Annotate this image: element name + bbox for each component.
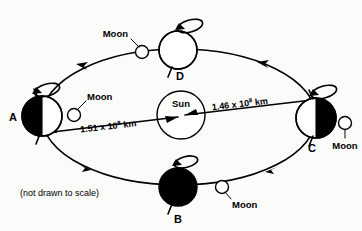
earth-a-rotation-arrow bbox=[32, 81, 61, 100]
moon-near-b-label: Moon bbox=[232, 199, 258, 210]
earth-b-axis-bottom bbox=[168, 204, 172, 214]
moon-near-d-circle bbox=[136, 46, 149, 59]
moon-near-c-label: Moon bbox=[332, 140, 358, 151]
earth-a-label: A bbox=[9, 111, 17, 123]
earth-orbit-diagram-root: Sun 1.51 x 108 km 1.46 x 108 km bbox=[0, 0, 362, 231]
moon-near-a-group: Moon bbox=[68, 91, 113, 122]
earth-b-rotation-arrow bbox=[172, 154, 199, 170]
earth-b-circle bbox=[159, 168, 197, 206]
distance-label-right: 1.46 x 108 km bbox=[211, 95, 268, 112]
not-to-scale-note: (not drawn to scale) bbox=[20, 188, 99, 198]
earth-d-rotation-arrow bbox=[175, 17, 204, 36]
earth-d-label: D bbox=[176, 70, 184, 82]
moon-near-a-circle bbox=[68, 109, 81, 122]
earth-d-axis-bottom bbox=[168, 67, 172, 77]
moon-near-b-group: Moon bbox=[216, 181, 258, 211]
sun-label: Sun bbox=[172, 98, 190, 109]
earth-position-b-group: B bbox=[159, 154, 199, 225]
earth-c-rotation-arrow bbox=[309, 83, 338, 102]
moon-near-d-label: Moon bbox=[103, 28, 129, 39]
distance-right-mantissa: 1.46 x 108 km bbox=[211, 95, 268, 112]
moon-near-d-leader bbox=[131, 39, 139, 47]
orbit-diagram-canvas: Sun 1.51 x 108 km 1.46 x 108 km bbox=[0, 0, 362, 231]
moon-near-a-leader bbox=[77, 101, 86, 110]
moon-near-b-circle bbox=[216, 181, 229, 194]
distance-left-mantissa: 1.51 x 108 km bbox=[80, 118, 137, 135]
earth-c-label: C bbox=[308, 142, 316, 154]
distance-label-left: 1.51 x 108 km bbox=[80, 118, 137, 135]
moon-near-c-circle bbox=[339, 117, 352, 130]
earth-position-d-group: D bbox=[159, 17, 204, 82]
moon-near-a-label: Moon bbox=[87, 91, 113, 102]
moon-near-b-leader bbox=[225, 192, 231, 199]
earth-b-label: B bbox=[174, 213, 182, 225]
